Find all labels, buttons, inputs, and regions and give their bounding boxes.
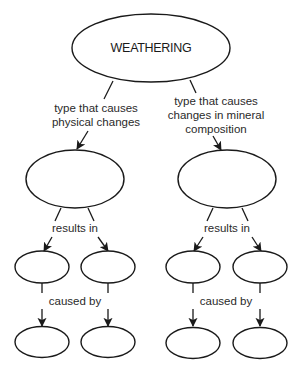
edge-physical-caused-by: caused by <box>42 283 108 326</box>
weathering-concept-map: WEATHERING type that causes physical cha… <box>0 0 302 373</box>
edge-arrow-right <box>252 237 261 251</box>
results-in-label-left: results in <box>52 222 98 234</box>
physical-cause-node-1[interactable] <box>15 327 69 358</box>
caused-by-label-left: caused by <box>49 295 102 307</box>
physical-cause-node-2[interactable] <box>81 327 135 358</box>
edge-arrow-lower <box>213 136 221 150</box>
edge-label-physical-line-2: physical changes <box>52 116 140 128</box>
edge-label-physical-line-1: type that causes <box>54 102 138 114</box>
edge-chemical-caused-by: caused by <box>193 283 260 326</box>
physical-result-node-1[interactable] <box>15 251 69 283</box>
edge-arrow-left <box>44 237 52 251</box>
edge-line-right-upper <box>242 208 248 221</box>
root-node: WEATHERING <box>72 14 230 82</box>
chemical-cause-node-1[interactable] <box>166 328 220 359</box>
edge-root-to-chemical: type that causes changes in mineral comp… <box>168 80 265 150</box>
edge-arrow-left <box>194 237 203 251</box>
edge-line-left-upper <box>55 208 61 221</box>
edge-label-chemical-line-3: composition <box>185 123 246 135</box>
caused-by-label-right: caused by <box>200 295 253 307</box>
edge-label-chemical-line-1: type that causes <box>174 95 258 107</box>
edge-label-chemical-line-2: changes in mineral <box>168 109 265 121</box>
chemical-weathering-node[interactable] <box>178 150 276 208</box>
edge-arrow-lower <box>77 131 88 149</box>
edge-line-right-upper <box>88 208 94 221</box>
results-in-label-right: results in <box>204 222 250 234</box>
edge-root-to-physical: type that causes physical changes <box>52 81 140 149</box>
edge-line-left-upper <box>207 208 213 221</box>
physical-weathering-node[interactable] <box>26 150 124 208</box>
edge-physical-results-in: results in <box>44 208 108 251</box>
chemical-cause-node-2[interactable] <box>233 328 287 359</box>
edge-chemical-results-in: results in <box>194 208 261 251</box>
edge-line-upper <box>104 81 113 99</box>
edge-arrow-right <box>98 237 108 251</box>
chemical-result-node-1[interactable] <box>166 251 220 283</box>
chemical-result-node-2[interactable] <box>233 251 287 283</box>
edge-line-upper <box>190 80 196 93</box>
physical-result-node-2[interactable] <box>81 251 135 283</box>
root-node-label: WEATHERING <box>111 41 192 55</box>
